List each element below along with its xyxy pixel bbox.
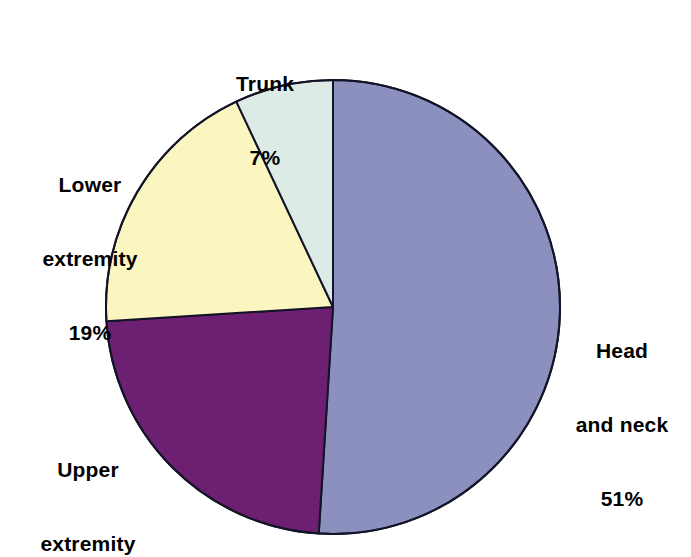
- pie-label-upper-extremity-name-line1: Upper: [4, 458, 172, 483]
- pie-label-head-and-neck-name-line1: Head: [556, 339, 688, 364]
- pie-label-lower-extremity-name-line1: Lower: [8, 173, 172, 198]
- pie-label-head-and-neck-value: 51%: [556, 487, 688, 512]
- pie-chart: Trunk 7% Lower extremity 19% Upper extre…: [0, 0, 691, 557]
- pie-label-upper-extremity-name-line2: extremity: [4, 532, 172, 557]
- pie-label-lower-extremity: Lower extremity 19%: [8, 123, 172, 395]
- pie-label-lower-extremity-value: 19%: [8, 321, 172, 346]
- pie-label-trunk-name: Trunk: [190, 72, 340, 97]
- pie-label-head-and-neck: Head and neck 51%: [556, 289, 688, 557]
- pie-label-upper-extremity: Upper extremity 23%: [4, 408, 172, 557]
- pie-slice-head-and-neck: [319, 80, 560, 534]
- pie-label-head-and-neck-name-line2: and neck: [556, 413, 688, 438]
- pie-label-lower-extremity-name-line2: extremity: [8, 247, 172, 272]
- pie-label-trunk: Trunk 7%: [190, 22, 340, 220]
- pie-label-trunk-value: 7%: [190, 146, 340, 171]
